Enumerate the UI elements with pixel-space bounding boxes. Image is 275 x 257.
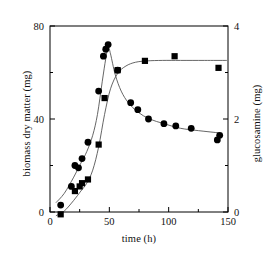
fit-curves bbox=[56, 47, 227, 216]
data-markers bbox=[57, 41, 223, 217]
plot-canvas bbox=[0, 0, 275, 257]
chart-figure: biomass dry matter (mg) glucosamine (mg)… bbox=[0, 0, 275, 257]
